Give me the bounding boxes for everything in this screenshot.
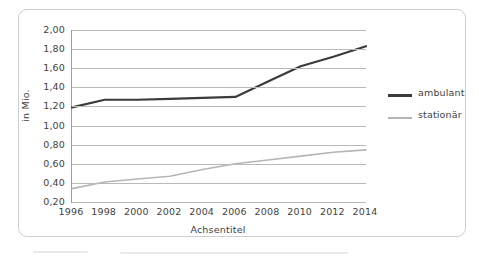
x-tick-label: 2008 (255, 206, 280, 218)
y-tick-label: 2,00 (29, 25, 65, 35)
legend-label: stationär (418, 109, 462, 120)
x-axis-title: Achsentitel (71, 224, 365, 235)
y-tick-label: 1,00 (29, 121, 65, 131)
y-tick-label: 0,80 (29, 140, 65, 150)
gridline (72, 106, 366, 107)
plot-area (71, 30, 366, 203)
gridline (72, 87, 366, 88)
y-tick-label: 1,80 (29, 44, 65, 54)
gridline (72, 202, 366, 203)
y-tick-label: 0,60 (29, 159, 65, 169)
x-tick-label: 2012 (320, 206, 345, 218)
page-root: in Mio. 2,001,801,601,401,201,000,800,60… (0, 0, 479, 260)
x-tick-label: 1996 (59, 206, 84, 218)
legend-label: ambulant (418, 87, 465, 98)
x-tick-label: 2004 (189, 206, 214, 218)
gridline (72, 183, 366, 184)
gridline (72, 126, 366, 127)
legend-swatch-icon (388, 117, 412, 119)
legend-swatch-icon (388, 94, 412, 97)
x-tick-label: 2002 (157, 206, 182, 218)
legend-item-ambulant[interactable]: ambulant (388, 86, 466, 108)
gridline (72, 68, 366, 69)
y-tick-label: 1,20 (29, 101, 65, 111)
gridline (72, 164, 366, 165)
gridline (72, 145, 366, 146)
chart-legend: ambulantstationär (388, 86, 466, 130)
line-chart: in Mio. 2,001,801,601,401,201,000,800,60… (0, 0, 479, 260)
x-tick-label: 2010 (287, 206, 312, 218)
x-tick-label: 1998 (91, 206, 116, 218)
gridline (72, 49, 366, 50)
x-tick-label: 2006 (222, 206, 247, 218)
y-tick-label: 1,60 (29, 63, 65, 73)
y-axis-tick-labels: 2,001,801,601,401,201,000,800,600,400,20 (27, 0, 65, 260)
x-axis-tick-labels: 1996199820002002200420062008201020122014 (71, 206, 365, 220)
y-tick-label: 0,40 (29, 178, 65, 188)
x-tick-label: 2000 (124, 206, 149, 218)
x-tick-label: 2014 (353, 206, 378, 218)
series-line-ambulant (72, 46, 366, 107)
gridline (72, 30, 366, 31)
legend-item-stationär[interactable]: stationär (388, 108, 466, 130)
series-lines (72, 30, 366, 202)
y-tick-label: 1,40 (29, 82, 65, 92)
